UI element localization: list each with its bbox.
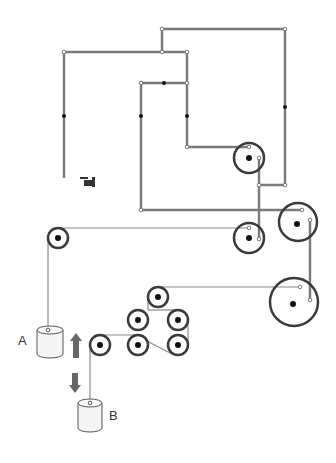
up-arrow-icon bbox=[70, 333, 82, 358]
pulleys bbox=[48, 143, 318, 355]
bucket-b bbox=[78, 399, 102, 432]
pulley-small-3 bbox=[168, 310, 188, 330]
bucket-a bbox=[37, 326, 63, 358]
pulley-small-5 bbox=[128, 335, 148, 355]
rope-paths bbox=[48, 228, 300, 402]
pulley-small-6 bbox=[168, 335, 188, 355]
pointing-hand-icon bbox=[80, 177, 95, 187]
pulley-small-1 bbox=[148, 287, 168, 307]
pulley-small-4 bbox=[90, 335, 110, 355]
bucket-a-label: A bbox=[18, 333, 27, 348]
pulley-left bbox=[48, 228, 68, 248]
rail-paths bbox=[64, 29, 310, 300]
pulley-diagram bbox=[0, 0, 336, 463]
bucket-b-label: B bbox=[109, 408, 118, 423]
pulley-small-2 bbox=[128, 310, 148, 330]
midpoint-dots bbox=[62, 81, 287, 118]
pulley-large-top-right bbox=[279, 203, 317, 241]
down-arrow-icon bbox=[69, 373, 81, 393]
